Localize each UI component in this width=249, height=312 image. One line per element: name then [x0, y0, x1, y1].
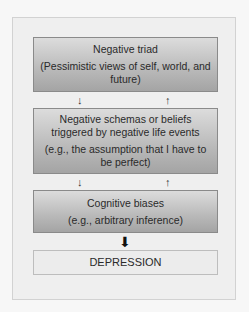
box-title: Negative schemas or beliefs triggered by… — [40, 113, 211, 139]
box-detail: (e.g., the assumption that I have to be … — [40, 143, 211, 169]
box-detail: (Pessimistic views of self, world, and f… — [40, 60, 211, 86]
box-title: DEPRESSION — [40, 256, 211, 269]
cognitive-biases-box: Cognitive biases (e.g., arbitrary infere… — [33, 190, 218, 233]
negative-schemas-box: Negative schemas or beliefs triggered by… — [33, 108, 218, 174]
arrow-up-icon: ↑ — [165, 177, 171, 188]
arrow-up-icon: ↑ — [165, 95, 171, 106]
arrow-down-icon: ↓ — [77, 177, 83, 188]
box-title: Negative triad — [40, 43, 211, 56]
negative-triad-box: Negative triad (Pessimistic views of sel… — [33, 37, 218, 92]
box-title: Cognitive biases — [40, 197, 211, 210]
depression-box: DEPRESSION — [33, 250, 218, 275]
big-arrow-down-icon: ⬇ — [119, 235, 131, 249]
arrow-down-icon: ↓ — [77, 95, 83, 106]
box-detail: (e.g., arbitrary inference) — [40, 214, 211, 227]
